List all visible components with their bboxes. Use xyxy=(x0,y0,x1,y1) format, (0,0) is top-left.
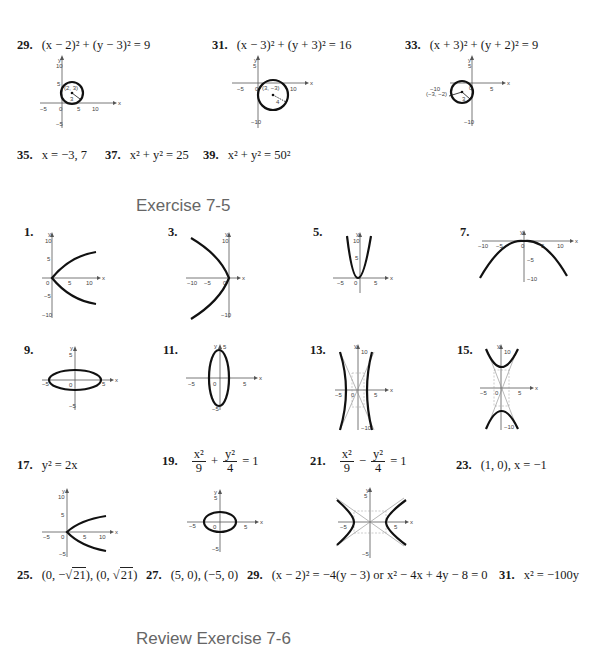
answer-29-parabola: 29.(x − 2)² = −4(y − 3) or x² − 4x + 4y … xyxy=(247,568,488,583)
answer-25: 25.(0, −√21), (0, √21) xyxy=(17,568,137,583)
graph-21-hyperbola: xy 5 −55 −5 xyxy=(0,0,601,654)
svg-text:x: x xyxy=(410,519,413,525)
answer-31-parabola: 31.x² = −100y xyxy=(499,568,579,583)
section-heading-review-exercise-7-6: Review Exercise 7-6 xyxy=(136,629,291,649)
answer-27: 27.(5, 0), (−5, 0) xyxy=(146,568,238,583)
svg-text:−5: −5 xyxy=(340,524,348,530)
svg-text:5: 5 xyxy=(394,524,398,530)
svg-text:5: 5 xyxy=(364,493,368,499)
svg-text:−5: −5 xyxy=(362,551,370,557)
